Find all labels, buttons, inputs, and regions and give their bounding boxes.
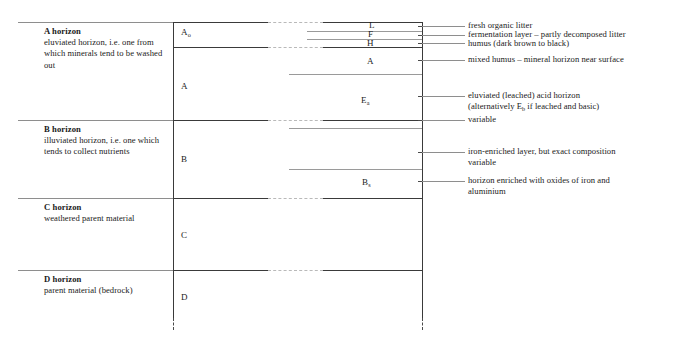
sublayer-label-bs: Bs (362, 178, 370, 187)
divider-gap-b-c (268, 198, 323, 199)
annotation-eluviated-line2: (alternatively Eb if leached and basic) (468, 101, 599, 112)
desc-rule-c-d (18, 270, 174, 271)
desc-title-a: A horizon (44, 26, 174, 37)
subline-a-ea (289, 74, 422, 75)
leader-eluviated (422, 96, 465, 97)
annotation-oxides: horizon enriched with oxides of iron and… (468, 175, 610, 196)
profile-label-c: C (181, 231, 187, 240)
subline-b-bs (289, 169, 422, 170)
desc-rule-top (18, 22, 174, 23)
profile-box-left-edge (173, 22, 174, 318)
desc-body-b: illuviated horizon, i.e. one which tends… (44, 135, 174, 157)
sublayer-label-a: A (367, 57, 374, 66)
leader-oxides (422, 181, 465, 182)
annotation-iron-enriched: iron-enriched layer, but exact compositi… (468, 146, 616, 167)
soil-profile-figure: A horizon eluviated horizon, i.e. one fr… (0, 0, 677, 347)
description-b-horizon: B horizon illuviated horizon, i.e. one w… (44, 124, 174, 158)
annotation-mixed-humus: mixed humus – mineral horizon near surfa… (468, 54, 624, 65)
leader-fermentation (422, 35, 465, 36)
divider-gap-ao-a (268, 47, 323, 48)
subline-f-h (307, 39, 422, 40)
desc-body-d: parent material (bedrock) (44, 285, 174, 296)
desc-title-c: C horizon (44, 202, 174, 213)
divider-gap-surface (268, 22, 323, 23)
desc-body-c: weathered parent material (44, 213, 174, 224)
annotation-humus: humus (dark brown to black) (468, 38, 569, 49)
subline-l-f (307, 31, 422, 32)
profile-label-d: D (181, 293, 188, 302)
leader-mixed-humus (422, 60, 465, 61)
leader-iron-enriched (422, 152, 465, 153)
profile-label-ao: Ao (181, 28, 191, 37)
annotation-oxides-line1: horizon enriched with oxides of iron and (468, 175, 610, 186)
profile-box-right-dash (422, 318, 423, 330)
annotation-variable: variable (468, 114, 496, 125)
annotation-oxides-line2: aluminium (468, 186, 610, 197)
description-a-horizon: A horizon eluviated horizon, i.e. one fr… (44, 26, 174, 71)
subline-b-top (289, 128, 422, 129)
annotation-iron-enriched-line1: iron-enriched layer, but exact compositi… (468, 146, 616, 157)
annotation-iron-enriched-line2: variable (468, 157, 616, 168)
leader-litter (422, 26, 465, 27)
leader-humus (422, 43, 465, 44)
profile-box-left-dash (173, 318, 174, 330)
annotation-eluviated-line1: eluviated (leached) acid horizon (468, 90, 599, 101)
desc-rule-b-c (18, 198, 174, 199)
sublayer-label-h: H (367, 39, 374, 48)
annotation-eluviated: eluviated (leached) acid horizon (altern… (468, 90, 599, 111)
desc-rule-a-b (18, 120, 174, 121)
profile-label-b: B (181, 155, 187, 164)
profile-label-a: A (181, 82, 188, 91)
sublayer-label-ea: Ea (361, 96, 369, 105)
desc-title-b: B horizon (44, 124, 174, 135)
profile-box-right-edge (422, 22, 423, 318)
divider-gap-c-d (268, 270, 323, 271)
leader-variable (422, 120, 465, 121)
divider-gap-a-b (268, 120, 323, 121)
desc-title-d: D horizon (44, 274, 174, 285)
desc-body-a: eluviated horizon, i.e. one from which m… (44, 37, 174, 71)
description-d-horizon: D horizon parent material (bedrock) (44, 274, 174, 296)
description-c-horizon: C horizon weathered parent material (44, 202, 174, 224)
